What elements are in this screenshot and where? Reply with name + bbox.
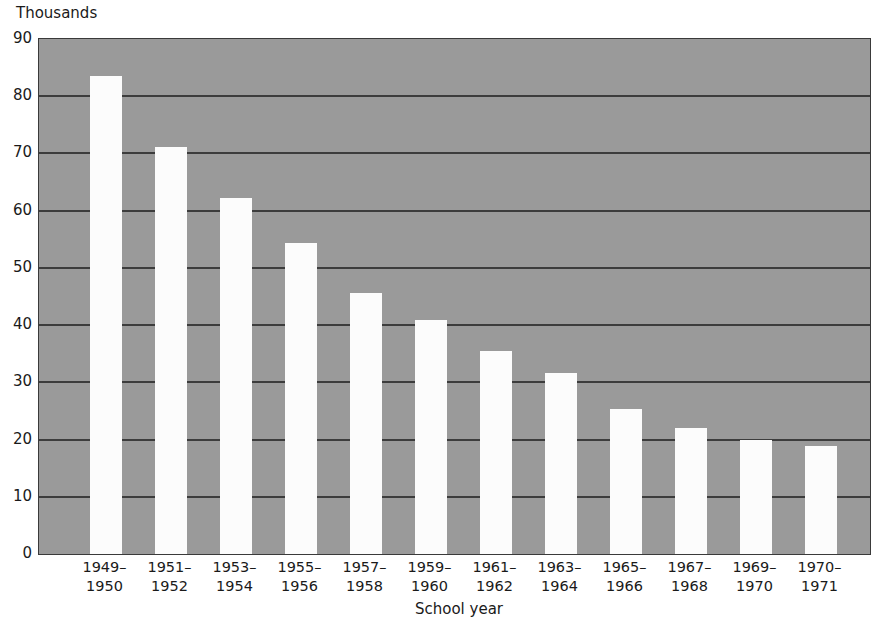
y-axis-tick-label: 60: [0, 202, 32, 217]
x-axis-tick-label-line: 1961–: [459, 558, 531, 577]
y-axis-tick-label: 0: [0, 546, 32, 561]
x-axis-tick-label-line: 1971: [784, 577, 856, 596]
bar: [675, 428, 707, 554]
x-axis-tick-label-line: 1968: [654, 577, 726, 596]
y-axis-tick-label: 40: [0, 317, 32, 332]
x-axis-tick-label-line: 1956: [264, 577, 336, 596]
bar: [805, 446, 837, 554]
x-axis-tick-label-line: 1960: [394, 577, 466, 596]
bar: [740, 440, 772, 554]
bar: [155, 147, 187, 554]
y-axis-tick-label: 50: [0, 259, 32, 274]
x-axis-tick-label: 1949–1950: [69, 558, 141, 596]
gridline: [39, 95, 870, 97]
x-axis-tick-label: 1969–1970: [719, 558, 791, 596]
x-axis-tick-label-line: 1962: [459, 577, 531, 596]
y-axis-tick-label: 90: [0, 31, 32, 46]
y-axis-tick-labels: 0102030405060708090: [0, 38, 32, 553]
x-axis-tick-label: 1957–1958: [329, 558, 401, 596]
x-axis-tick-label-line: 1970–: [784, 558, 856, 577]
x-axis-tick-label-line: 1970: [719, 577, 791, 596]
x-axis-tick-label: 1965–1966: [589, 558, 661, 596]
x-axis-tick-label-line: 1963–: [524, 558, 596, 577]
y-axis-tick-label: 10: [0, 488, 32, 503]
bar: [220, 198, 252, 554]
x-axis-tick-label-line: 1955–: [264, 558, 336, 577]
x-axis-title: School year: [0, 600, 890, 618]
y-axis-unit-caption: Thousands: [16, 4, 97, 22]
bar: [480, 351, 512, 554]
x-axis-tick-label: 1951–1952: [134, 558, 206, 596]
x-axis-tick-label-line: 1965–: [589, 558, 661, 577]
x-axis-tick-label-line: 1959–: [394, 558, 466, 577]
x-axis-tick-label: 1963–1964: [524, 558, 596, 596]
x-axis-tick-label-line: 1957–: [329, 558, 401, 577]
x-axis-tick-label-line: 1969–: [719, 558, 791, 577]
y-axis-tick-label: 20: [0, 431, 32, 446]
bar: [350, 293, 382, 554]
bar: [415, 320, 447, 554]
x-axis-tick-label-line: 1964: [524, 577, 596, 596]
bar-chart: Thousands 0102030405060708090 1949–19501…: [0, 0, 890, 632]
x-axis-tick-label: 1970–1971: [784, 558, 856, 596]
x-axis-tick-label-line: 1952: [134, 577, 206, 596]
x-axis-tick-label-line: 1967–: [654, 558, 726, 577]
x-axis-tick-label-line: 1953–: [199, 558, 271, 577]
bar: [285, 243, 317, 554]
bar: [610, 409, 642, 554]
bar: [90, 76, 122, 554]
x-axis-tick-label-line: 1958: [329, 577, 401, 596]
x-axis-tick-label-line: 1954: [199, 577, 271, 596]
x-axis-tick-label: 1967–1968: [654, 558, 726, 596]
x-axis-tick-label-line: 1949–: [69, 558, 141, 577]
y-axis-tick-label: 70: [0, 145, 32, 160]
x-axis-tick-label-line: 1950: [69, 577, 141, 596]
x-axis-tick-label: 1959–1960: [394, 558, 466, 596]
y-axis-tick-label: 30: [0, 374, 32, 389]
x-axis-tick-label-line: 1966: [589, 577, 661, 596]
x-axis-tick-label-line: 1951–: [134, 558, 206, 577]
x-axis-tick-label: 1953–1954: [199, 558, 271, 596]
plot-area: [38, 38, 871, 555]
x-axis-tick-labels: 1949–19501951–19521953–19541955–19561957…: [38, 558, 869, 598]
bar: [545, 373, 577, 554]
y-axis-tick-label: 80: [0, 88, 32, 103]
x-axis-tick-label: 1961–1962: [459, 558, 531, 596]
x-axis-tick-label: 1955–1956: [264, 558, 336, 596]
